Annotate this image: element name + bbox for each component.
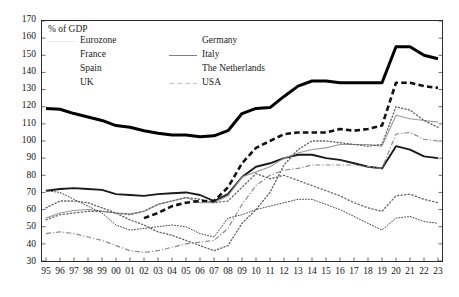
x-tick-23: 23 [428, 267, 448, 277]
legend-label: USA [202, 77, 221, 87]
legend-swatch-icon [168, 54, 198, 56]
legend-title: % of GDP [48, 24, 88, 34]
legend-label: Italy [202, 49, 219, 59]
y-tick-140: 140 [0, 67, 36, 77]
y-tick-110: 110 [0, 119, 36, 129]
legend-label: France [80, 49, 106, 59]
y-tick-160: 160 [0, 32, 36, 42]
legend-swatch-icon [168, 40, 198, 42]
y-tick-90: 90 [0, 153, 36, 163]
chart-legend: % of GDP EurozoneGermanyFranceItalySpain… [46, 24, 272, 86]
legend-label: The Netherlands [202, 63, 265, 73]
series-line-the-netherlands [46, 191, 438, 237]
legend-swatch-icon [46, 82, 76, 84]
series-line-eurozone [46, 146, 438, 201]
y-tick-30: 30 [0, 257, 36, 267]
chart-root: 17016015014013012011010090807060504030 9… [0, 0, 459, 297]
legend-swatch-icon [46, 68, 76, 70]
legend-swatch-icon [46, 40, 76, 42]
y-tick-170: 170 [0, 15, 36, 25]
y-tick-150: 150 [0, 50, 36, 60]
series-line-germany [46, 174, 438, 220]
legend-label: Germany [202, 35, 237, 45]
y-tick-50: 50 [0, 222, 36, 232]
y-tick-100: 100 [0, 136, 36, 146]
legend-swatch-icon [46, 54, 76, 56]
legend-label: Eurozone [80, 35, 116, 45]
y-tick-80: 80 [0, 171, 36, 181]
series-line-spain [46, 107, 438, 251]
y-tick-60: 60 [0, 205, 36, 215]
legend-swatch-icon [168, 82, 198, 84]
series-line-france [46, 115, 438, 218]
legend-swatch-icon [168, 68, 198, 70]
y-tick-70: 70 [0, 188, 36, 198]
y-tick-40: 40 [0, 240, 36, 250]
series-line-uk [46, 132, 438, 252]
y-tick-130: 130 [0, 84, 36, 94]
y-tick-120: 120 [0, 101, 36, 111]
legend-label: UK [80, 77, 94, 87]
legend-label: Spain [80, 63, 102, 73]
